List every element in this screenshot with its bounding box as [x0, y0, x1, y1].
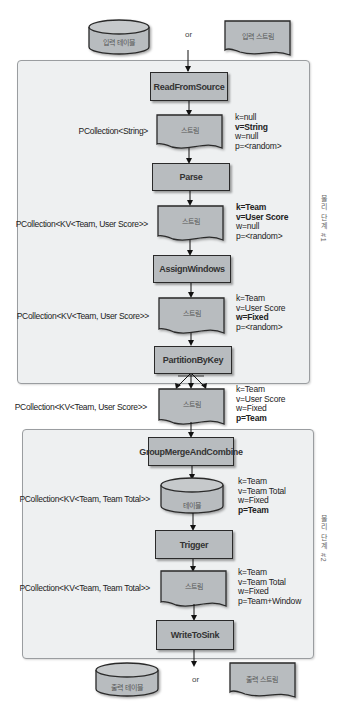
input-table-label: 입력 테이블 [89, 37, 149, 47]
ann-p: p=<random> [236, 323, 285, 333]
pcollection-2-annotation: k=Team v=User Score w=null p=<random> [236, 203, 288, 241]
stage-2-side-label: 물리 단계 #2 [318, 515, 328, 563]
ann-p: p=Team [238, 506, 286, 516]
ann-p: p=<random> [236, 232, 288, 242]
shuffle-arrows [175, 373, 207, 389]
pcollection-5-annotation: k=Team v=Team Total w=Fixed p=Team [238, 477, 286, 515]
stream-1-label: 스트림 [157, 125, 222, 135]
step-assign-windows[interactable]: AssignWindows [153, 255, 231, 283]
pcollection-4-annotation: k=Team v=User Score w=Fixed p=Team [236, 385, 285, 423]
pcollection-6-annotation: k=Team v=Team Total w=Fixed p=Team+Windo… [238, 568, 301, 606]
step-trigger[interactable]: Trigger [155, 530, 233, 559]
pcollection-2-label: PCollection<KV<Team, User Score>> [16, 219, 148, 229]
stream-2-label: 스트림 [158, 216, 223, 226]
ann-p: p=<random> [235, 142, 281, 152]
ann-p: p=Team+Window [238, 597, 301, 607]
stream-3-label: 스트림 [159, 308, 224, 318]
input-stream-label: 입력 스트림 [228, 31, 288, 41]
table-label: 테이블 [161, 500, 223, 510]
pcollection-1-label: PCollection<String> [79, 126, 148, 136]
step-write-to-sink[interactable]: WriteToSink [156, 620, 234, 650]
pcollection-5-label: PCollection<KV<Team, Team Total>> [19, 494, 150, 504]
stream-5-label: 스트림 [161, 581, 226, 591]
output-table-label: 출력 테이블 [96, 682, 158, 692]
pcollection-4-label: PCollection<KV<Team, User Score>> [15, 402, 147, 412]
step-partition-by-key[interactable]: PartitionByKey [154, 346, 232, 374]
pcollection-1-annotation: k=null v=String w=null p=<random> [235, 113, 281, 151]
pcollection-6-label: PCollection<KV<Team, Team Total>> [19, 583, 150, 593]
stream-4-label: 스트림 [159, 399, 224, 409]
pcollection-3-annotation: k=Team v=User Score w=Fixed p=<random> [236, 294, 285, 332]
step-read-from-source[interactable]: ReadFromSource [150, 72, 228, 101]
step-parse[interactable]: Parse [152, 163, 230, 191]
pcollection-3-label: PCollection<KV<Team, User Score>> [17, 311, 149, 321]
step-group-merge-and-combine[interactable]: GroupMergeAndCombine [148, 437, 234, 466]
output-stream-label: 출력 스트림 [232, 674, 292, 684]
input-or-label: or [185, 30, 192, 39]
output-or-label: or [192, 675, 199, 684]
ann-p: p=Team [236, 414, 285, 424]
stage-1-side-label: 물리 단계 #1 [318, 195, 328, 243]
